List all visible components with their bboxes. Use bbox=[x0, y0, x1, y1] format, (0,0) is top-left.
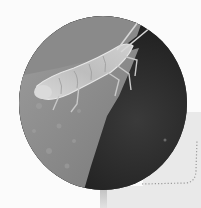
insect-photo-illustration bbox=[19, 16, 187, 190]
insect-photo bbox=[19, 16, 187, 190]
image-canvas bbox=[0, 0, 201, 208]
